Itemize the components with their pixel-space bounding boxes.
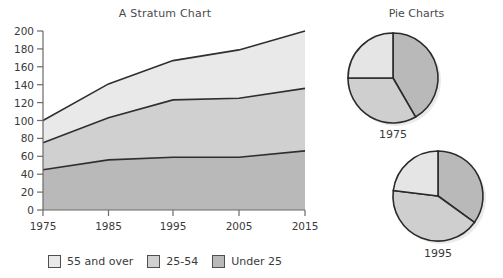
pie-1995-slice-55-and-over [393, 151, 438, 196]
legend-item-55-and-over: 55 and over [48, 255, 133, 268]
y-axis-ticks [37, 31, 43, 210]
pie-1995-caption: 1995 [398, 247, 478, 260]
pie-charts-panel: Pie Charts 1975 1995 [330, 0, 503, 278]
x-axis-ticks [43, 210, 305, 216]
legend-item-25-54: 25-54 [147, 255, 198, 268]
pie-charts-title: Pie Charts [330, 7, 503, 20]
legend-label: 55 and over [67, 255, 133, 268]
y-tick-label: 200 [14, 25, 34, 37]
y-tick-label: 0 [27, 204, 34, 216]
legend-swatch-icon [48, 255, 61, 268]
y-tick-label: 80 [21, 132, 34, 144]
chart-figure: A Stratum Chart [0, 0, 503, 278]
y-tick-label: 140 [14, 79, 34, 91]
stratum-chart-panel: A Stratum Chart [0, 0, 330, 245]
y-tick-label: 120 [14, 97, 34, 109]
legend-swatch-icon [212, 255, 225, 268]
x-axis-labels: 1975 1985 1995 2005 2015 [30, 220, 319, 232]
chart-legend: 55 and over 25-54 Under 25 [0, 249, 330, 273]
y-tick-label: 100 [14, 115, 34, 127]
legend-label: Under 25 [231, 255, 282, 268]
legend-swatch-icon [147, 255, 160, 268]
y-tick-label: 160 [14, 61, 34, 73]
x-tick-label: 2005 [226, 220, 253, 232]
y-tick-label: 20 [21, 186, 34, 198]
y-axis-labels: 200 180 160 140 120 100 80 60 40 20 0 [14, 25, 34, 216]
x-tick-label: 1985 [95, 220, 122, 232]
legend-label: 25-54 [166, 255, 198, 268]
y-tick-label: 60 [21, 150, 34, 162]
x-tick-label: 2015 [292, 220, 319, 232]
x-tick-label: 1975 [30, 220, 57, 232]
pie-1975-slice-55-and-over [348, 33, 393, 78]
stratum-chart-svg: 200 180 160 140 120 100 80 60 40 20 0 [0, 0, 330, 245]
legend-item-under-25: Under 25 [212, 255, 282, 268]
y-tick-label: 180 [14, 43, 34, 55]
pie-1975-caption: 1975 [353, 128, 433, 141]
x-tick-label: 1995 [160, 220, 187, 232]
y-tick-label: 40 [21, 168, 34, 180]
